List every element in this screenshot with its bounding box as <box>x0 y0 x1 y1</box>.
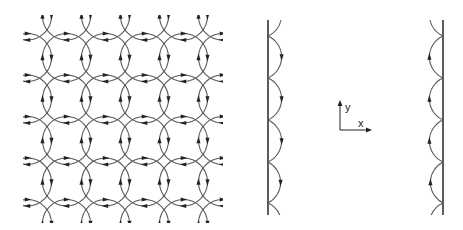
orbit-arrow-right-icon <box>103 31 110 35</box>
orbit-arrow-down-icon <box>127 55 131 62</box>
skipping-orbit-arrow-down-icon <box>280 54 284 61</box>
orbit-arrow-left-icon <box>141 204 148 208</box>
orbit-arrow-left-icon <box>180 79 187 83</box>
orbit-arrow-left-icon <box>63 162 70 166</box>
orbit-arrow-left-icon <box>180 38 187 42</box>
orbit-arrow-down-icon <box>205 179 209 186</box>
orbit-arrow-down-icon <box>127 179 131 186</box>
orbit-arrow-up-icon <box>1 54 5 61</box>
orbit-arrow-down-icon <box>127 13 131 20</box>
orbit-arrow-down-icon <box>205 55 209 62</box>
skipping-orbit-arrow-down-icon <box>279 180 283 187</box>
orbit-arrow-right-icon <box>220 197 227 201</box>
orbit-arrow-up-icon <box>157 178 161 185</box>
skipping-orbit-arc <box>429 120 443 162</box>
orbit-arrow-right-icon <box>142 73 149 77</box>
y-axis-arrow-icon <box>338 100 343 106</box>
orbit-arrow-down-icon <box>88 55 92 62</box>
orbit-arrow-up-icon <box>40 95 44 102</box>
skipping-orbit-arc <box>429 36 443 78</box>
orbit-arrow-right-icon <box>64 197 71 201</box>
orbit-arrow-right-icon <box>64 31 71 35</box>
orbit-arrow-right-icon <box>64 73 71 77</box>
orbit-arrow-up-icon <box>118 12 122 19</box>
orbit-arrow-down-icon <box>205 13 209 20</box>
skipping-orbit-arc-partial <box>430 20 443 36</box>
orbit-arrow-left-icon <box>102 79 109 83</box>
orbit-arrow-left-icon <box>63 38 70 42</box>
bulk-orbit-grid <box>4 0 247 230</box>
orbit-arrow-up-icon <box>1 137 5 144</box>
orbit-arrow-right-icon <box>25 31 32 35</box>
orbit-arrow-up-icon <box>118 54 122 61</box>
orbit-arrow-left-icon <box>219 38 226 42</box>
orbit-arrow-down-icon <box>205 96 209 103</box>
orbit-arrow-left-icon <box>141 162 148 166</box>
orbit-arrow-up-icon <box>118 137 122 144</box>
orbit-arrow-left-icon <box>24 121 31 125</box>
orbit-arrow-down-icon <box>88 138 92 145</box>
orbit-arrow-left-icon <box>102 204 109 208</box>
orbit-arrow-right-icon <box>25 197 32 201</box>
orbit-arrow-up-icon <box>40 54 44 61</box>
orbit-arrow-up-icon <box>157 137 161 144</box>
orbit-arrow-right-icon <box>220 114 227 118</box>
orbit-arrow-left-icon <box>180 121 187 125</box>
orbit-arrow-up-icon <box>196 12 200 19</box>
orbit-arrow-up-icon <box>79 137 83 144</box>
orbit-arrow-up-icon <box>157 54 161 61</box>
orbit-arrow-right-icon <box>181 114 188 118</box>
orbit-arrow-left-icon <box>24 204 31 208</box>
orbit-arrow-up-icon <box>40 178 44 185</box>
skipping-orbit-arc-partial <box>268 20 281 36</box>
orbit-arrow-right-icon <box>103 114 110 118</box>
orbit-arrow-up-icon <box>40 220 44 227</box>
magnetic-orbit-diagram: y x <box>0 0 463 230</box>
orbit-arrow-up-icon <box>157 95 161 102</box>
orbit-arrow-right-icon <box>181 197 188 201</box>
orbit-arrow-right-icon <box>103 197 110 201</box>
orbit-arrow-down-icon <box>49 13 53 20</box>
skipping-orbit-arc <box>268 36 282 78</box>
orbit-arrow-down-icon <box>244 138 248 145</box>
orbit-arrow-left-icon <box>102 121 109 125</box>
orbit-arrow-up-icon <box>79 12 83 19</box>
orbit-arrow-down-icon <box>88 96 92 103</box>
orbit-arrow-left-icon <box>219 204 226 208</box>
orbit-arrow-left-icon <box>219 162 226 166</box>
orbit-arrow-down-icon <box>166 179 170 186</box>
orbit-arrow-down-icon <box>127 138 131 145</box>
orbit-arrow-up-icon <box>79 178 83 185</box>
y-axis-label: y <box>345 101 351 113</box>
skipping-orbit-arrow-up-icon <box>427 53 431 60</box>
orbit-arrow-right-icon <box>25 114 32 118</box>
orbit-arrow-up-icon <box>118 95 122 102</box>
orbit-arrow-right-icon <box>25 73 32 77</box>
skipping-orbit-arc-partial <box>431 203 443 215</box>
orbit-arrow-up-icon <box>118 178 122 185</box>
orbit-arrow-down-icon <box>88 221 92 228</box>
orbit-arrow-up-icon <box>1 12 5 19</box>
orbit-arrow-down-icon <box>166 221 170 228</box>
orbit-arrow-right-icon <box>220 31 227 35</box>
orbit-arrow-right-icon <box>220 156 227 160</box>
skipping-orbit-arrow-down-icon <box>280 138 284 145</box>
orbit-arrow-down-icon <box>244 96 248 103</box>
orbit-arrow-left-icon <box>180 162 187 166</box>
orbit-arrow-left-icon <box>102 162 109 166</box>
coordinate-axes: y x <box>338 100 373 133</box>
orbit-arrow-down-icon <box>127 221 131 228</box>
orbit-arrow-right-icon <box>142 114 149 118</box>
orbit-arrow-down-icon <box>49 138 53 145</box>
orbit-arrow-left-icon <box>141 38 148 42</box>
orbit-arrow-right-icon <box>220 73 227 77</box>
orbit-arrow-down-icon <box>127 96 131 103</box>
orbit-arrow-up-icon <box>196 137 200 144</box>
orbit-arrow-down-icon <box>49 96 53 103</box>
orbit-arrow-left-icon <box>63 79 70 83</box>
x-axis-arrow-icon <box>366 128 372 133</box>
orbit-arrow-down-icon <box>205 221 209 228</box>
orbit-arrow-left-icon <box>24 79 31 83</box>
orbit-arrow-down-icon <box>166 13 170 20</box>
orbit-arrow-up-icon <box>79 95 83 102</box>
